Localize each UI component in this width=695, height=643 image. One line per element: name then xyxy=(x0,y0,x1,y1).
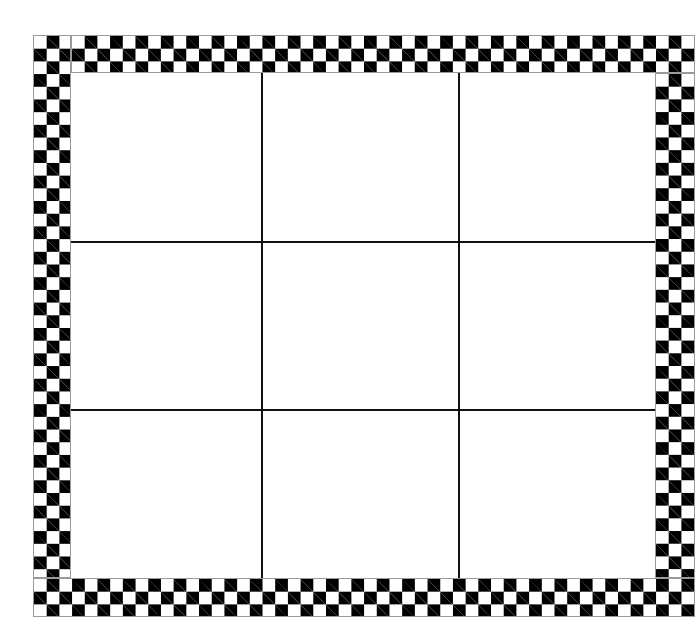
game-board xyxy=(33,35,695,617)
board-cell-r2-c2[interactable] xyxy=(263,243,460,411)
board-cell-r3-c1[interactable] xyxy=(71,411,263,578)
board-cell-r1-c3[interactable] xyxy=(460,73,655,243)
checkered-border-right xyxy=(655,73,695,578)
checkered-border-bottom xyxy=(33,578,695,617)
checkered-border-left xyxy=(33,35,71,578)
board-cell-r3-c3[interactable] xyxy=(460,411,655,578)
board-cell-r2-c1[interactable] xyxy=(71,243,263,411)
board-cell-r1-c2[interactable] xyxy=(263,73,460,243)
board-cell-r2-c3[interactable] xyxy=(460,243,655,411)
checkered-border-top xyxy=(71,35,695,73)
tic-tac-toe-grid xyxy=(71,73,655,578)
board-cell-r1-c1[interactable] xyxy=(71,73,263,243)
board-interior xyxy=(71,73,655,578)
board-cell-r3-c2[interactable] xyxy=(263,411,460,578)
